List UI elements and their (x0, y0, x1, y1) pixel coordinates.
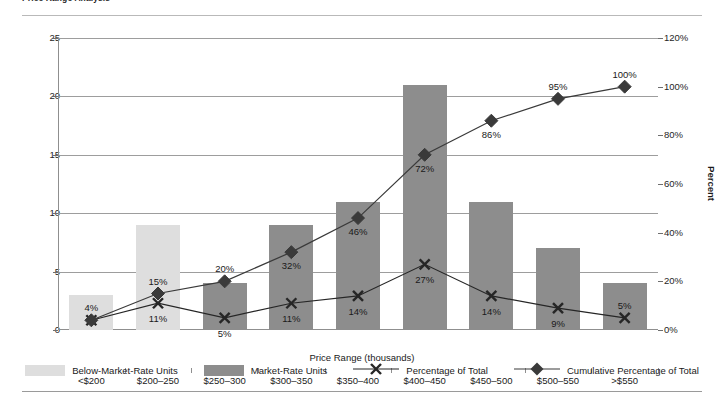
y-tick-label-right: 20% (664, 275, 683, 286)
diamond-marker (485, 114, 498, 127)
legend-x-marker-icon (353, 362, 399, 378)
legend-swatch (204, 365, 244, 376)
top-divider-rule (22, 15, 702, 16)
bottom-divider-rule (22, 391, 702, 392)
x-marker (420, 259, 430, 269)
diamond-marker (618, 80, 631, 93)
legend-swatch (25, 365, 65, 376)
y-tick-mark-right (658, 233, 663, 234)
y-tick-label-right: 0% (664, 324, 678, 335)
y-tick-mark-right (658, 281, 663, 282)
figure-title: Price Range Analysis (22, 0, 110, 3)
y-tick-label-right: 100% (664, 81, 688, 92)
legend-item[interactable]: Market-Rate Units (204, 365, 328, 376)
x-marker (220, 313, 230, 323)
y-tick-mark-right (658, 330, 663, 331)
diamond-marker (218, 275, 231, 288)
chart-figure: Price Range Analysis Number of Units Per… (0, 0, 724, 410)
y-tick-mark-right (658, 135, 663, 136)
line-series-layer (58, 38, 658, 330)
y-tick-label-right: 80% (664, 129, 683, 140)
x-marker (486, 291, 496, 301)
legend-label: Market-Rate Units (251, 365, 328, 376)
diamond-marker (285, 246, 298, 259)
series-line (91, 264, 624, 320)
y-tick-mark-right (658, 184, 663, 185)
series-line (91, 87, 624, 321)
y-tick-label-right: 40% (664, 227, 683, 238)
legend-item[interactable]: Below-Market-Rate Units (25, 365, 178, 376)
diamond-marker (552, 92, 565, 105)
legend-item[interactable]: Percentage of Total (353, 362, 488, 378)
y-tick-label-right: 60% (664, 178, 683, 189)
y-tick-mark-right (658, 87, 663, 88)
legend-item[interactable]: Cumulative Percentage of Total (514, 362, 699, 378)
legend-label: Below-Market-Rate Units (72, 365, 178, 376)
legend-label: Percentage of Total (406, 365, 488, 376)
chart-legend: Below-Market-Rate UnitsMarket-Rate Units… (0, 362, 724, 378)
legend-diamond-marker-icon (514, 362, 560, 378)
y-tick-mark-right (658, 38, 663, 39)
y-tick-label-right: 120% (664, 32, 688, 43)
plot-area: 4%11%5%11%14%27%14%9%5%15%20%32%46%72%86… (58, 38, 658, 330)
y-axis-title-right: Percent (706, 166, 717, 201)
legend-label: Cumulative Percentage of Total (567, 365, 699, 376)
y-tick-mark-left (53, 330, 58, 331)
